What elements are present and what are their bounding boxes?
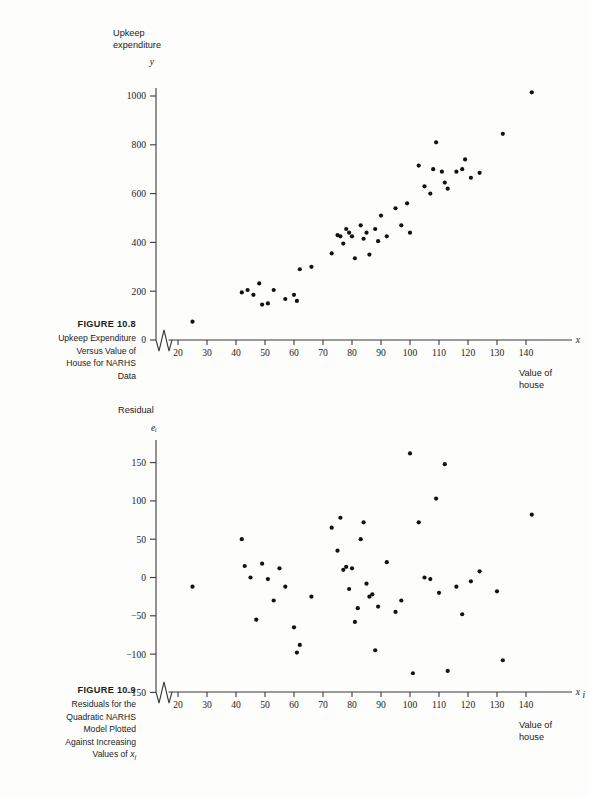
x-tick-label: 40 (231, 699, 241, 710)
figure-1-caption-line-4: Data (4, 370, 136, 382)
data-point (347, 231, 351, 235)
data-point (350, 234, 354, 238)
figure-2-caption-line-3: Model Plotted (4, 723, 136, 735)
data-point (367, 253, 371, 257)
x-tick-label: 40 (231, 347, 241, 358)
data-point (437, 591, 441, 595)
figure-2-caption-line-1: Residuals for the (4, 698, 136, 710)
data-point (344, 565, 348, 569)
x-tick-label: 110 (432, 347, 446, 358)
data-point (272, 288, 276, 292)
data-point (266, 577, 270, 581)
x-tick-label: 100 (403, 699, 418, 710)
data-point (446, 669, 450, 673)
data-point (428, 192, 432, 196)
page-canvas: 02004006008001000 2030405060708090100110… (0, 0, 589, 797)
data-point (240, 290, 244, 294)
data-point (495, 589, 499, 593)
data-point (530, 513, 534, 517)
x-ticks-1: 2030405060708090100110120130140x (173, 334, 581, 358)
data-point (460, 167, 464, 171)
data-point (478, 569, 482, 573)
x-tick-label: 130 (490, 699, 505, 710)
x-tick-label: 110 (432, 699, 446, 710)
data-point (246, 288, 250, 292)
data-point (344, 227, 348, 231)
data-point (530, 90, 534, 94)
data-point (295, 299, 299, 303)
data-point (359, 537, 363, 541)
data-point (190, 585, 194, 589)
figure-1-caption-line-1: Upkeep Expenditure (4, 332, 136, 344)
data-point (364, 231, 368, 235)
data-point (469, 579, 473, 583)
data-point (443, 462, 447, 466)
data-point (283, 297, 287, 301)
x-tick-label: 70 (318, 699, 328, 710)
y-tick-label: 400 (132, 237, 147, 248)
x-tick-label: 30 (202, 347, 212, 358)
y-tick-label: 600 (132, 188, 147, 199)
data-point (356, 606, 360, 610)
data-point (501, 132, 505, 136)
data-point (309, 265, 313, 269)
data-point (376, 605, 380, 609)
data-point (399, 598, 403, 602)
x-tick-label: 30 (202, 699, 212, 710)
data-point (330, 526, 334, 530)
figure-1-caption-title: FIGURE 10.8 (4, 318, 136, 330)
data-point (251, 293, 255, 297)
data-point (417, 520, 421, 524)
x-axis-label-text-1: Value ofhouse (519, 368, 589, 391)
x-axis-title-2: Value ofhouse (519, 720, 589, 743)
data-point (243, 564, 247, 568)
data-point (454, 170, 458, 174)
x-tick-label: 70 (318, 347, 328, 358)
x-tick-label: 50 (260, 699, 270, 710)
figure-2-caption-line-5: Values of xi (4, 748, 136, 764)
figure-2-caption-line-4: Against Increasing (4, 736, 136, 748)
x-ticks-2: 2030405060708090100110120130140xi (173, 686, 585, 710)
data-point (440, 170, 444, 174)
data-point (373, 648, 377, 652)
data-point (408, 231, 412, 235)
figure-2-caption-line-2: Quadratic NARHS (4, 711, 136, 723)
y-ticks-2: −150−100−50050100150 (126, 457, 156, 698)
x-tick-label: 100 (403, 347, 418, 358)
data-point (399, 223, 403, 227)
data-point (298, 643, 302, 647)
x-tick-label: 140 (519, 699, 534, 710)
x-axis-variable: x (575, 334, 581, 345)
x-tick-label: 60 (289, 699, 299, 710)
data-point (359, 223, 363, 227)
y-tick-label: 0 (141, 572, 146, 583)
data-point (260, 562, 264, 566)
data-point (379, 213, 383, 217)
x-tick-label: 130 (490, 347, 505, 358)
data-point (257, 281, 261, 285)
data-point (411, 671, 415, 675)
data-point (341, 242, 345, 246)
y-axis-variable-1: y (150, 56, 154, 67)
x-axis-title-1: Value ofhouse (519, 368, 589, 391)
data-point (393, 206, 397, 210)
y-axis-variable-2: eᵢ (151, 422, 157, 433)
y-tick-label: 800 (132, 139, 147, 150)
data-point (338, 234, 342, 238)
x-tick-label: 90 (376, 347, 386, 358)
data-point (353, 256, 357, 260)
x-tick-label: 140 (519, 347, 534, 358)
data-point (309, 595, 313, 599)
x-tick-label: 80 (347, 699, 357, 710)
y-tick-label: 100 (132, 495, 147, 506)
data-point (341, 568, 345, 572)
x-tick-label: 60 (289, 347, 299, 358)
data-point (248, 575, 252, 579)
data-point (298, 267, 302, 271)
data-point (277, 566, 281, 570)
x-axis-variable-subscript: i (583, 689, 586, 700)
y-tick-label: 50 (136, 534, 146, 545)
data-point (454, 585, 458, 589)
data-point (330, 251, 334, 255)
data-point (373, 227, 377, 231)
